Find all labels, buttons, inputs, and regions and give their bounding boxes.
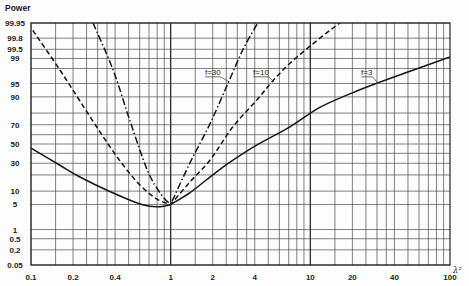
y-axis-title: Power [5, 3, 31, 13]
x-axis-ticks: 0.10.20.4124102040100 [25, 273, 457, 282]
x-tick-label: 4 [253, 273, 258, 282]
y-tick-label: 0.5 [9, 235, 21, 244]
y-tick-label: 0.2 [9, 246, 21, 255]
label-leader-line [205, 77, 229, 82]
y-tick-label: 30 [11, 159, 20, 168]
power-chart: 99.9599.899.599959070503010510.50.20.05 … [0, 0, 469, 286]
y-tick-label: 99.5 [7, 45, 23, 54]
y-tick-label: 1 [13, 226, 18, 235]
y-tick-label: 0.05 [7, 261, 23, 270]
curve-f-3 [31, 57, 450, 207]
x-tick-label: 0.4 [110, 273, 122, 282]
curve-label-f-10: f=10 [253, 68, 269, 77]
y-tick-label: 90 [11, 93, 20, 102]
label-leader-line [253, 77, 274, 82]
y-tick-label: 99.95 [5, 19, 26, 28]
x-tick-label: 2 [210, 273, 215, 282]
curve-label-f-3: f=3 [361, 68, 373, 77]
chart-canvas: 99.9599.899.599959070503010510.50.20.05 … [0, 0, 469, 286]
curve-labels: f=3f=10f=30 [205, 68, 377, 82]
x-tick-label: 1 [168, 273, 173, 282]
y-tick-label: 95 [11, 80, 20, 89]
x-tick-label: 20 [348, 273, 357, 282]
x-tick-label: 0.1 [25, 273, 37, 282]
y-tick-label: 5 [13, 200, 18, 209]
y-tick-label: 99 [11, 54, 20, 63]
curve-label-f-30: f=30 [205, 68, 221, 77]
y-tick-label: 99.8 [7, 34, 23, 43]
x-tick-label: 40 [390, 273, 399, 282]
y-tick-label: 70 [11, 121, 20, 130]
y-axis-ticks: 99.9599.899.599959070503010510.50.20.05 [5, 19, 26, 270]
power-curves [31, 23, 450, 207]
x-tick-label: 0.2 [67, 273, 79, 282]
gridlines [31, 23, 450, 265]
label-leader-line [361, 77, 377, 82]
y-tick-label: 10 [11, 187, 20, 196]
x-tick-label: 10 [306, 273, 315, 282]
curve-f-30 [93, 23, 258, 204]
y-tick-label: 50 [11, 140, 20, 149]
x-axis-title: λ² [452, 265, 462, 275]
